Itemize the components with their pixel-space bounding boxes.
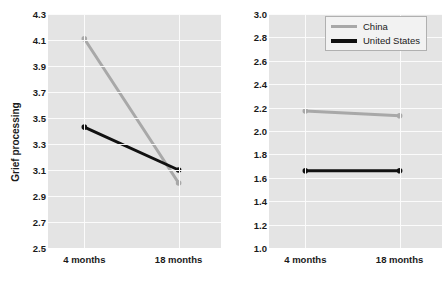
y-axis-tick-label: 1.4	[223, 196, 267, 207]
legend-color-swatch	[331, 39, 357, 43]
legend: ChinaUnited States	[325, 16, 427, 51]
y-axis-ticks-right: 3.02.82.62.42.22.01.81.61.41.21.0	[222, 14, 267, 248]
gridline-horizontal	[48, 92, 221, 93]
y-axis-tick-label: 1.8	[223, 149, 267, 160]
gridline-horizontal	[48, 118, 221, 119]
gridline-horizontal	[269, 154, 442, 155]
y-axis-ticks-left: 4.34.13.93.73.53.33.12.92.72.5	[0, 14, 46, 248]
series-line	[305, 111, 399, 116]
gridline-horizontal	[269, 14, 442, 15]
y-axis-tick-label: 2.8	[223, 32, 267, 43]
gridline-horizontal	[48, 196, 221, 197]
series-lines-left	[48, 14, 221, 248]
gridline-horizontal	[48, 66, 221, 67]
x-axis-tick-label: 4 months	[284, 254, 326, 265]
gridline-horizontal	[269, 84, 442, 85]
y-axis-tick-label: 2.4	[223, 79, 267, 90]
y-axis-tick-label: 2.6	[223, 55, 267, 66]
y-axis-tick-label: 1.0	[223, 243, 267, 254]
y-axis-tick-label: 2.0	[223, 126, 267, 137]
legend-item: China	[331, 21, 420, 32]
y-axis-tick-label: 3.0	[223, 9, 267, 20]
gridline-vertical	[305, 14, 306, 248]
y-axis-tick-label: 3.9	[2, 61, 46, 72]
x-axis-tick-label: 18 months	[155, 254, 203, 265]
gridline-vertical	[84, 14, 85, 248]
y-axis-tick-label: 2.5	[2, 243, 46, 254]
y-axis-tick-label: 3.1	[2, 165, 46, 176]
plot-area-left	[48, 14, 221, 248]
legend-item-label: United States	[363, 35, 420, 46]
gridline-horizontal	[269, 225, 442, 226]
x-axis-tick-label: 18 months	[376, 254, 424, 265]
y-axis-tick-label: 4.3	[2, 9, 46, 20]
gridline-horizontal	[269, 131, 442, 132]
gridline-horizontal	[48, 170, 221, 171]
figure: Grief processing 4.34.13.93.73.53.33.12.…	[0, 0, 445, 284]
gridline-horizontal	[269, 61, 442, 62]
series-line	[84, 39, 178, 183]
legend-color-swatch	[331, 25, 357, 28]
gridline-horizontal	[48, 40, 221, 41]
legend-item-label: China	[363, 21, 388, 32]
gridline-vertical	[179, 14, 180, 248]
y-axis-tick-label: 2.2	[223, 102, 267, 113]
chart-panel-grief-processing: Grief processing 4.34.13.93.73.53.33.12.…	[0, 0, 222, 284]
gridline-horizontal	[269, 178, 442, 179]
x-axis-tick-label: 4 months	[63, 254, 105, 265]
series-line	[84, 127, 178, 170]
y-axis-tick-label: 3.5	[2, 113, 46, 124]
gridline-horizontal	[269, 108, 442, 109]
gridline-horizontal	[48, 144, 221, 145]
y-axis-tick-label: 4.1	[2, 35, 46, 46]
y-axis-tick-label: 2.9	[2, 191, 46, 202]
y-axis-tick-label: 2.7	[2, 217, 46, 228]
gridline-horizontal	[48, 222, 221, 223]
chart-panel-grief-avoidance: Grief avoidance 3.02.82.62.42.22.01.81.6…	[222, 0, 445, 284]
legend-item: United States	[331, 35, 420, 46]
gridline-horizontal	[269, 201, 442, 202]
y-axis-tick-label: 1.6	[223, 172, 267, 183]
y-axis-tick-label: 3.7	[2, 87, 46, 98]
y-axis-tick-label: 1.2	[223, 219, 267, 230]
gridline-horizontal	[48, 14, 221, 15]
y-axis-tick-label: 3.3	[2, 139, 46, 150]
